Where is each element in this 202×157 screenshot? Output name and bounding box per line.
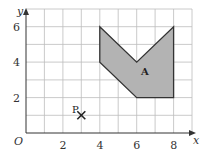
y-tick-4: 4 bbox=[13, 56, 20, 69]
y-tick-6: 6 bbox=[13, 21, 20, 34]
x-tick-2: 2 bbox=[60, 139, 67, 152]
x-tick-4: 4 bbox=[96, 139, 103, 152]
y-tick-2: 2 bbox=[13, 92, 20, 105]
x-axis-label: x bbox=[193, 134, 200, 147]
coordinate-grid-diagram: y x O 2 4 6 8 2 4 6 A P bbox=[0, 0, 202, 157]
shape-a-label: A bbox=[140, 66, 149, 77]
x-tick-6: 6 bbox=[133, 139, 140, 152]
y-axis-label: y bbox=[16, 5, 24, 18]
x-tick-8: 8 bbox=[170, 139, 177, 152]
origin-label: O bbox=[14, 135, 23, 148]
point-p-label: P bbox=[72, 104, 79, 115]
